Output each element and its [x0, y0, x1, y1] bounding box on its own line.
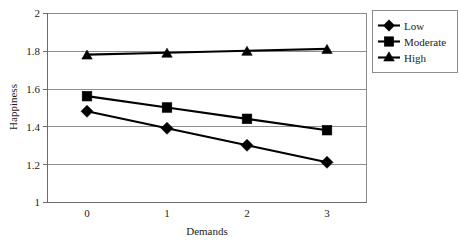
- square-marker-icon: [384, 37, 393, 46]
- chart-legend: Low Moderate High: [373, 11, 458, 73]
- legend-label-low: Low: [404, 20, 424, 32]
- y-tick-label-1-2: 1.2: [26, 159, 40, 171]
- legend-label-moderate: Moderate: [404, 36, 446, 48]
- y-tick-label-1: 1: [35, 196, 41, 208]
- legend-label-high: High: [404, 52, 427, 64]
- x-tick-label-0: 0: [84, 207, 90, 219]
- chart-figure: 2 1.8 1.6 1.4 1.2 1 0 1 2 3 Demands Happ…: [0, 0, 461, 241]
- x-tick-label-2: 2: [244, 207, 250, 219]
- square-marker-icon: [162, 103, 172, 113]
- y-axis-title: Happiness: [7, 84, 19, 130]
- y-axis-ticks: [43, 14, 47, 203]
- square-marker-icon: [82, 91, 92, 101]
- x-tick-label-3: 3: [324, 207, 330, 219]
- x-tick-label-1: 1: [164, 207, 170, 219]
- y-tick-label-1-4: 1.4: [26, 121, 40, 133]
- y-tick-label-1-8: 1.8: [26, 45, 40, 57]
- legend-item-moderate[interactable]: Moderate: [378, 36, 446, 48]
- plot-background: [47, 13, 367, 202]
- square-marker-icon: [242, 114, 252, 124]
- x-axis-title: Demands: [186, 225, 228, 237]
- y-tick-label-2: 2: [35, 7, 41, 19]
- line-chart: 2 1.8 1.6 1.4 1.2 1 0 1 2 3 Demands Happ…: [0, 0, 461, 241]
- square-marker-icon: [322, 125, 332, 135]
- y-tick-label-1-6: 1.6: [26, 83, 40, 95]
